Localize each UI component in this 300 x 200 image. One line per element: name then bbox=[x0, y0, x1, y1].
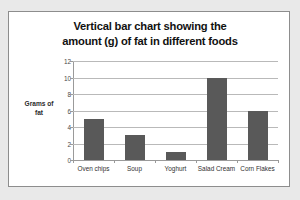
bar-corn-flakes bbox=[248, 111, 268, 161]
x-tick-mark-0 bbox=[73, 160, 74, 163]
bar-soup bbox=[125, 135, 145, 160]
bar-yoghurt bbox=[166, 152, 186, 160]
x-label-soup: Soup bbox=[114, 165, 155, 173]
y-tick-label-2: 2 bbox=[49, 140, 71, 147]
y-tick-label-12: 12 bbox=[49, 58, 71, 65]
gridline-10 bbox=[73, 78, 278, 79]
x-tick-mark-3 bbox=[196, 160, 197, 163]
gridline-0 bbox=[73, 160, 278, 161]
x-tick-mark-5 bbox=[278, 160, 279, 163]
x-label-yoghurt: Yoghurt bbox=[155, 165, 196, 173]
y-tick-label-6: 6 bbox=[49, 107, 71, 114]
gridline-8 bbox=[73, 94, 278, 95]
bar-oven-chips bbox=[84, 119, 104, 160]
gridline-12 bbox=[73, 61, 278, 62]
plot-area bbox=[73, 61, 278, 160]
y-tick-label-8: 8 bbox=[49, 91, 71, 98]
x-tick-mark-4 bbox=[237, 160, 238, 163]
x-label-salad-cream: Salad Cream bbox=[196, 165, 237, 173]
x-tick-mark-1 bbox=[114, 160, 115, 163]
x-label-oven-chips: Oven chips bbox=[73, 165, 114, 173]
y-tick-label-4: 4 bbox=[49, 124, 71, 131]
y-axis-tick-labels: 024681012 bbox=[47, 61, 71, 160]
chart-card: Vertical bar chart showing the amount (g… bbox=[8, 11, 290, 187]
x-label-corn-flakes: Corn Flakes bbox=[237, 165, 278, 173]
bar-chart-plot: Grams of fat 024681012 Oven chipsSoupYog… bbox=[9, 12, 291, 188]
bar-salad-cream bbox=[207, 78, 227, 161]
y-tick-label-0: 0 bbox=[49, 157, 71, 164]
y-tick-label-10: 10 bbox=[49, 74, 71, 81]
x-tick-mark-2 bbox=[155, 160, 156, 163]
